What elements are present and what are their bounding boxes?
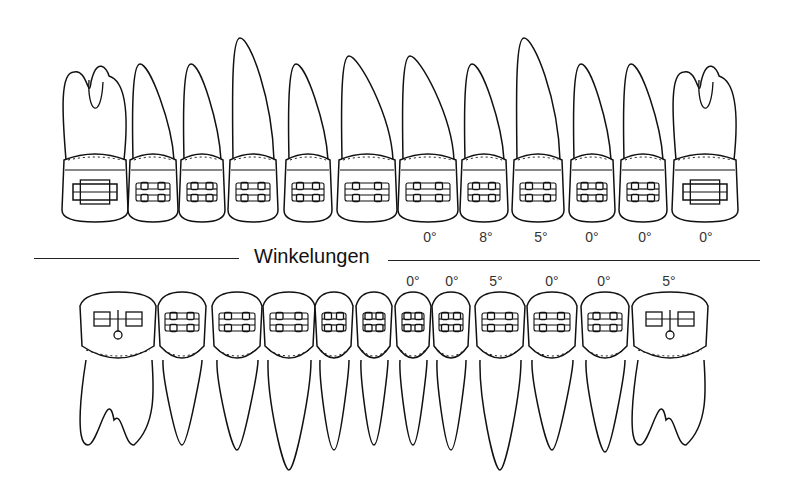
angulation-label: 5° — [662, 273, 675, 289]
tooth-canine — [475, 292, 525, 470]
tooth-incisor — [395, 292, 431, 445]
tooth-premolar — [569, 64, 615, 222]
diagram-title: Winkelungen — [248, 245, 376, 268]
tooth-incisor — [460, 64, 508, 222]
tooth-molar — [672, 66, 738, 222]
tooth-incisor — [398, 56, 458, 222]
tooth-canine — [228, 38, 278, 222]
tooth-premolar — [128, 64, 178, 222]
angulation-label: 0° — [406, 273, 419, 289]
tooth-canine — [263, 292, 315, 470]
tooth-premolar — [212, 292, 262, 450]
tooth-premolar — [158, 292, 206, 445]
angulation-label: 0° — [423, 229, 436, 245]
angulation-label: 5° — [489, 273, 502, 289]
angulation-label: 0° — [597, 273, 610, 289]
tooth-incisor — [315, 292, 353, 450]
tooth-incisor — [337, 56, 397, 222]
tooth-molar — [632, 292, 708, 445]
tooth-canine — [512, 38, 564, 222]
lower-dental-arch — [80, 292, 708, 470]
tooth-premolar — [527, 292, 577, 450]
upper-dental-arch — [62, 38, 738, 222]
tooth-incisor — [432, 292, 470, 450]
angulation-label: 0° — [585, 229, 598, 245]
tooth-premolar — [619, 64, 667, 222]
molar-tube — [73, 180, 117, 204]
tooth-incisor — [356, 292, 392, 445]
tooth-molar — [80, 292, 156, 445]
tooth-premolar — [179, 64, 225, 222]
angulation-label: 0° — [638, 229, 651, 245]
divider-left — [34, 258, 239, 259]
divider-right — [388, 260, 760, 261]
tooth-incisor — [284, 64, 332, 222]
angulation-label: 5° — [534, 229, 547, 245]
dental-bracket-diagram — [0, 0, 801, 494]
angulation-label: 0° — [699, 229, 712, 245]
tooth-premolar — [581, 292, 629, 452]
angulation-label: 0° — [445, 273, 458, 289]
angulation-label: 8° — [479, 229, 492, 245]
angulation-label: 0° — [545, 273, 558, 289]
molar-tube — [683, 180, 727, 204]
tooth-molar — [62, 66, 128, 222]
